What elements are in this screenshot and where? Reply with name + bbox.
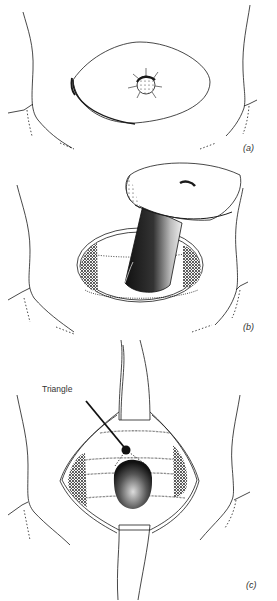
panel-label-a: (a) xyxy=(243,143,254,153)
triangle-annotation: Triangle xyxy=(42,384,72,394)
panel-label-b: (b) xyxy=(243,322,254,332)
panel-c xyxy=(8,340,250,600)
surgical-illustration xyxy=(0,0,277,601)
panel-b xyxy=(8,163,248,334)
panel-label-c: (c) xyxy=(246,580,257,590)
panel-a xyxy=(8,5,257,149)
